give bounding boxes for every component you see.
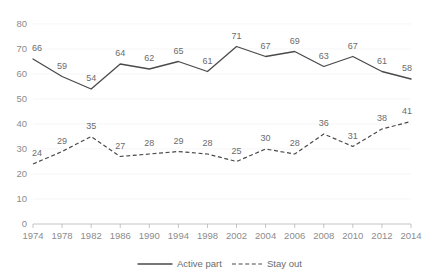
data-label-series2: 30 bbox=[261, 133, 271, 143]
x-axis-tick-label: 2010 bbox=[342, 230, 363, 241]
x-axis-tick-label: 1998 bbox=[197, 230, 218, 241]
data-label-series1: 61 bbox=[202, 56, 212, 66]
data-label-series2: 28 bbox=[290, 138, 300, 148]
x-axis-tick-label: 1986 bbox=[110, 230, 131, 241]
x-axis-tick-label: 2002 bbox=[226, 230, 247, 241]
legend-label-1: Active part bbox=[177, 258, 222, 269]
data-label-series1: 62 bbox=[144, 53, 154, 63]
x-axis-tick-label: 2008 bbox=[313, 230, 334, 241]
data-label-series2: 28 bbox=[144, 138, 154, 148]
data-label-series2: 27 bbox=[115, 141, 125, 151]
data-label-series2: 36 bbox=[319, 118, 329, 128]
data-label-series1: 59 bbox=[57, 61, 67, 71]
data-label-series2: 29 bbox=[57, 136, 67, 146]
data-label-series1: 61 bbox=[377, 56, 387, 66]
data-label-series1: 54 bbox=[86, 73, 96, 83]
x-axis-tick-label: 2012 bbox=[371, 230, 392, 241]
x-axis-tick-label: 1982 bbox=[81, 230, 102, 241]
x-axis-tick-label: 2004 bbox=[255, 230, 276, 241]
data-label-series1: 65 bbox=[173, 46, 183, 56]
y-axis-tick-label: 10 bbox=[16, 193, 27, 204]
data-label-series2: 28 bbox=[202, 138, 212, 148]
data-label-series1: 58 bbox=[402, 63, 412, 73]
data-label-series2: 41 bbox=[402, 106, 412, 116]
y-axis-tick-label: 30 bbox=[16, 143, 27, 154]
y-axis-tick-label: 70 bbox=[16, 43, 27, 54]
x-axis-tick-label: 2014 bbox=[400, 230, 421, 241]
x-axis-tick-label: 1978 bbox=[52, 230, 73, 241]
data-label-series2: 31 bbox=[348, 131, 358, 141]
x-axis-tick-label: 1994 bbox=[168, 230, 189, 241]
data-label-series2: 38 bbox=[377, 113, 387, 123]
data-label-series1: 66 bbox=[32, 43, 42, 53]
y-axis-tick-label: 50 bbox=[16, 93, 27, 104]
y-axis-tick-label: 80 bbox=[16, 18, 27, 29]
legend-label-2: Stay out bbox=[267, 258, 302, 269]
chart-canvas: 0102030405060708019741978198219861990199… bbox=[0, 0, 422, 280]
data-label-series2: 24 bbox=[32, 148, 42, 158]
data-label-series1: 67 bbox=[261, 41, 271, 51]
line-chart: 0102030405060708019741978198219861990199… bbox=[0, 0, 422, 280]
data-label-series2: 35 bbox=[86, 121, 96, 131]
y-axis-tick-label: 20 bbox=[16, 168, 27, 179]
data-label-series2: 25 bbox=[232, 146, 242, 156]
data-label-series1: 64 bbox=[115, 48, 125, 58]
data-label-series2: 29 bbox=[173, 136, 183, 146]
x-axis-tick-label: 2006 bbox=[284, 230, 305, 241]
y-axis-tick-label: 0 bbox=[22, 218, 27, 229]
x-axis-tick-label: 1990 bbox=[139, 230, 160, 241]
data-label-series1: 69 bbox=[290, 36, 300, 46]
data-label-series1: 71 bbox=[232, 31, 242, 41]
y-axis-tick-label: 40 bbox=[16, 118, 27, 129]
y-axis-tick-label: 60 bbox=[16, 68, 27, 79]
data-label-series1: 67 bbox=[348, 41, 358, 51]
data-label-series1: 63 bbox=[319, 51, 329, 61]
x-axis-tick-label: 1974 bbox=[22, 230, 43, 241]
